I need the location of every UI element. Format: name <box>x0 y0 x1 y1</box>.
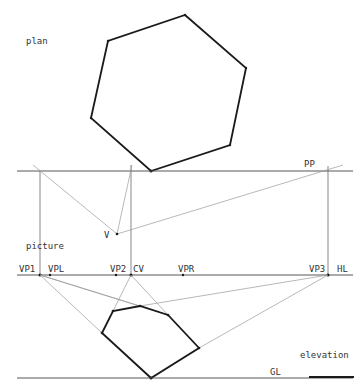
picture-label: picture <box>26 241 64 251</box>
vp1-label: VP1 <box>19 264 35 274</box>
elevation-label: elevation <box>300 350 349 360</box>
perspective-hexagon <box>102 306 199 378</box>
vp2-label: VP2 <box>110 264 126 274</box>
sight-line-left <box>33 165 117 234</box>
perspective-hexagon-vertices <box>101 305 201 380</box>
plan-label: plan <box>26 36 48 46</box>
perspective-diagram: plan picture elevation PP HL GL V VP1 VP… <box>0 0 364 392</box>
vpr-label: VPR <box>178 264 195 274</box>
plan-hexagon-vertices <box>90 14 247 173</box>
sight-line-center <box>117 165 132 234</box>
construction-cv-a <box>113 275 131 311</box>
pp-label: PP <box>304 159 315 169</box>
construction-vp1-a <box>40 275 102 333</box>
plan-hexagon <box>91 15 246 171</box>
gl-label: GL <box>270 367 281 377</box>
station-point-dot <box>116 233 119 236</box>
hl-label: HL <box>337 264 348 274</box>
vpl-label: VPL <box>48 264 64 274</box>
vp3-label: VP3 <box>309 264 325 274</box>
v-label: V <box>104 230 110 240</box>
cv-label: CV <box>133 264 144 274</box>
sight-line-right <box>117 165 343 234</box>
construction-vp3-a <box>140 275 328 306</box>
